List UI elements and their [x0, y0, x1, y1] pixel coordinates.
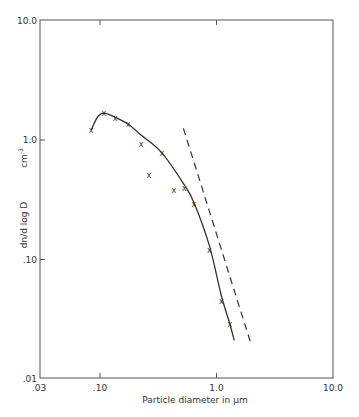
x-marker: x: [139, 140, 144, 149]
chart: .03.101.010.0.01.101.010.0 xxxxxxxxxxxxx…: [0, 0, 359, 417]
x-tick-label: 10.0: [323, 383, 343, 393]
x-marker: x: [89, 126, 94, 135]
y-tick-label: .10: [23, 255, 38, 265]
axis-tick-labels: .03.101.010.0.01.101.010.0: [17, 16, 343, 394]
fitted-curve-path: [91, 113, 234, 340]
x-tick-label: .03: [32, 383, 46, 393]
x-marker: x: [227, 320, 232, 329]
y-axis-title-group: dn/d log D: [19, 202, 29, 249]
x-marker: x: [207, 246, 212, 255]
x-marker: x: [147, 171, 152, 180]
x-marker: x: [102, 109, 107, 118]
y-units-base: cm: [19, 154, 29, 168]
plot-frame: [40, 20, 333, 378]
x-marker: x: [192, 200, 197, 209]
x-marker: x: [160, 149, 165, 158]
dashed-line-path: [183, 128, 251, 345]
y-axis-units: cm-3: [17, 148, 29, 168]
x-marker: x: [126, 120, 131, 129]
reference-dashed-line: [183, 128, 251, 345]
y-tick-label: .01: [23, 374, 37, 384]
x-marker: x: [113, 114, 118, 123]
fitted-curve: [91, 113, 234, 340]
x-axis-title: Particle diameter in μm: [142, 395, 247, 405]
axis-ticks: [40, 20, 217, 378]
x-marker: x: [219, 297, 224, 306]
y-axis-title: dn/d log D: [19, 202, 29, 249]
y-tick-label: 10.0: [17, 16, 37, 26]
data-markers: xxxxxxxxxxxxx: [89, 109, 233, 329]
x-tick-label: .10: [93, 383, 108, 393]
x-marker: x: [171, 186, 176, 195]
x-tick-label: 1.0: [209, 383, 224, 393]
y-tick-label: 1.0: [23, 135, 38, 145]
y-axis-units-group: cm-3: [17, 148, 29, 168]
x-marker: x: [182, 184, 187, 193]
y-units-exponent: -3: [17, 148, 24, 154]
